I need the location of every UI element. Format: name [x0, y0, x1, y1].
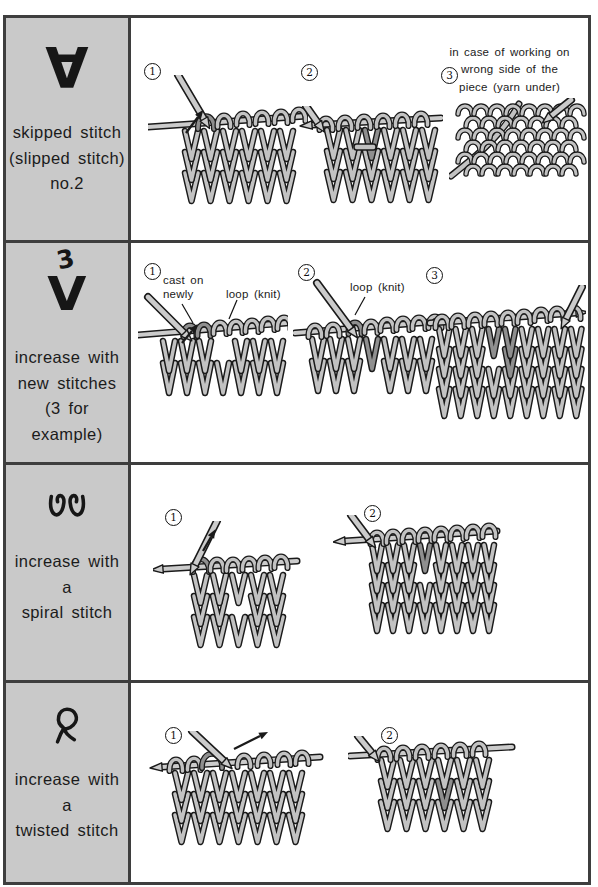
row-title-line: skipped stitch [9, 120, 125, 146]
row-title-line: no.2 [9, 171, 125, 197]
row-illustrations-increase-new-stitches: 1 cast on newly loop (knit) 2 loop (knit… [131, 243, 588, 465]
increase-3-stitches-symbol-icon: 3 V [49, 257, 85, 331]
row-header-increase-new-stitches: 3 V increase with new stitches (3 for ex… [6, 243, 131, 465]
row-title-line: increase with a [6, 767, 128, 818]
row-illustrations-twisted-stitch: 1 2 [131, 683, 588, 882]
row-title-line: increase with [6, 345, 128, 371]
row-title-line: increase with a [6, 549, 128, 600]
knitting-illustration-step-2 [333, 515, 501, 643]
row-title: increase with new stitches (3 for exampl… [6, 345, 128, 447]
knitting-illustration-step-2 [298, 106, 443, 216]
symbol-v: V [47, 271, 86, 317]
loop-knit-label: loop (knit) [350, 280, 405, 294]
row-title-line: spiral stitch [6, 600, 128, 626]
label-line: newly [163, 287, 203, 301]
row-header-skipped-stitch: ∀ skipped stitch (slipped stitch) no.2 [6, 18, 131, 243]
table-frame: ∀ skipped stitch (slipped stitch) no.2 1… [3, 15, 591, 885]
note-line: wrong side of the [431, 61, 588, 78]
loop-knit-label: loop (knit) [226, 287, 281, 301]
row-illustrations-spiral-stitch: 1 2 [131, 465, 588, 683]
cast-on-label: cast on newly [163, 273, 203, 302]
row-illustrations-skipped-stitch: 1 2 3 in case of working on wrong side o… [131, 18, 588, 243]
note-line: piece (yarn under) [431, 79, 588, 96]
row-header-twisted-stitch: increase with a twisted stitch [6, 683, 131, 882]
row-title-line: (3 for example) [6, 396, 128, 447]
knitting-manual-page: ∀ skipped stitch (slipped stitch) no.2 1… [0, 0, 598, 887]
step-note: in case of working on wrong side of the … [431, 44, 588, 96]
row-title: increase with a spiral stitch [6, 549, 128, 626]
row-title: skipped stitch (slipped stitch) no.2 [9, 120, 125, 197]
knitting-illustration-step-3 [449, 98, 589, 200]
twisted-stitch-symbol-icon [47, 697, 87, 753]
skipped-stitch-symbol-icon: ∀ [45, 32, 88, 106]
row-header-spiral-stitch: increase with a spiral stitch [6, 465, 131, 683]
note-line: in case of working on [431, 44, 588, 61]
row-title-line: new stitches [6, 371, 128, 397]
knitting-illustration-step-1 [148, 75, 308, 209]
knitting-illustration-step-1 [148, 731, 326, 853]
knitting-illustration-step-2 [348, 736, 516, 842]
row-title-line: twisted stitch [6, 818, 128, 844]
spiral-stitch-symbol-icon [44, 479, 90, 535]
knitting-illustration-step-1 [153, 521, 303, 651]
step-number: 3 [426, 267, 443, 284]
row-title: increase with a twisted stitch [6, 767, 128, 844]
knitting-illustration-step-3 [424, 285, 586, 433]
label-line: cast on [163, 273, 203, 287]
step-number: 2 [301, 64, 318, 81]
row-title-line: (slipped stitch) [9, 146, 125, 172]
